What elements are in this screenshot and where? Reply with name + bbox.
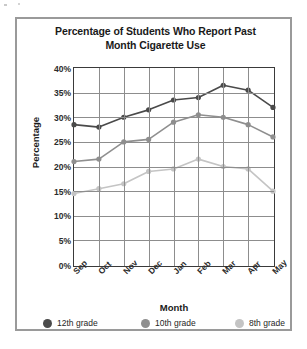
y-tick-label: 35% [43,88,71,98]
x-axis-tick-labels: SepOctNovDecJanFebMarAprMay [73,267,275,301]
scan-artifact-speck [18,3,20,5]
y-tick-label: 0% [43,261,71,271]
gridline-vertical [124,68,125,266]
chart-figure-frame: Percentage of Students Who Report Past M… [15,17,292,331]
y-tick-label: 5% [43,236,71,246]
legend-item[interactable]: 12th grade [43,318,98,328]
legend-swatch-circle-icon [141,319,150,328]
y-tick-label: 10% [43,211,71,221]
y-tick-label: 25% [43,137,71,147]
data-point-marker [270,105,275,110]
legend-label: 8th grade [249,318,285,328]
chart-legend: 12th grade10th grade8th grade [19,315,292,331]
y-tick-label: 15% [43,187,71,197]
chart-title-line-1: Percentage of Students Who Report Past [27,25,284,39]
chart-title: Percentage of Students Who Report Past M… [27,25,284,52]
data-point-marker [71,122,76,127]
gridline-vertical [99,68,100,266]
y-tick-label: 40% [43,64,71,74]
gridline-vertical [174,68,175,266]
legend-label: 12th grade [57,318,98,328]
legend-label: 10th grade [155,318,196,328]
y-tick-label: 20% [43,162,71,172]
chart-title-line-2: Month Cigarette Use [27,39,284,53]
legend-item[interactable]: 8th grade [235,318,285,328]
data-point-marker [71,159,76,164]
y-tick-label: 30% [43,113,71,123]
data-point-marker [270,134,275,139]
gridline-vertical [198,68,199,266]
legend-swatch-circle-icon [235,319,244,328]
legend-swatch-circle-icon [43,319,52,328]
x-axis-title: Month [73,302,275,313]
y-axis-tick-labels: 0%5%10%15%20%25%30%35%40% [39,67,71,267]
gridline-vertical [223,68,224,266]
gridline-vertical [149,68,150,266]
plot-area [73,67,275,267]
gridline-vertical [248,68,249,266]
scan-artifact-speck [4,4,7,6]
legend-item[interactable]: 10th grade [141,318,196,328]
